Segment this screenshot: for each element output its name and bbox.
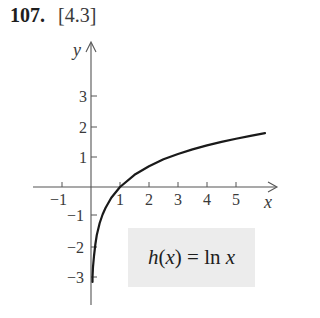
y-tick-label: 1 [79,149,87,166]
x-tick-label: 5 [232,191,240,208]
x-tick-label: 3 [174,191,182,208]
function-name: h [148,245,159,269]
y-tick-label: 2 [79,119,87,136]
x-tick-label: −1 [50,191,67,208]
function-variable: x [165,245,174,269]
x-tick-label: 2 [145,191,153,208]
y-tick-label: −2 [67,239,84,256]
ln-operator: ln [204,245,220,269]
x-ticks [62,182,236,187]
x-tick-label: 1 [116,191,124,208]
y-tick-label: 3 [79,88,87,105]
function-label: h(x) = ln x [148,245,235,270]
x-tick-label: 4 [203,191,211,208]
equals-sign: = [187,245,199,269]
x-axis-label: x [263,192,272,212]
rhs-variable: x [226,245,235,269]
y-axis-label: y [71,40,81,60]
y-tick-label: −1 [67,207,84,224]
y-tick-label: −3 [67,269,84,286]
function-label-box: h(x) = ln x [128,228,255,287]
